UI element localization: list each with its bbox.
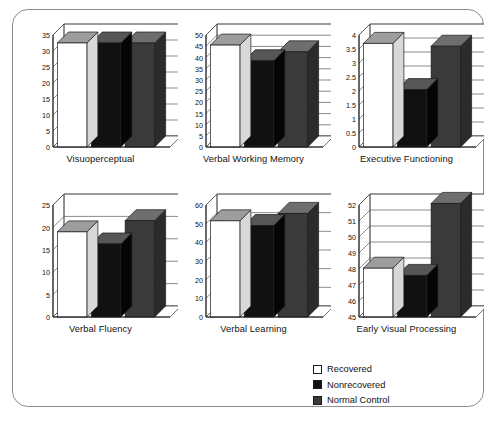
legend-item-normal-control: Normal Control bbox=[313, 393, 473, 407]
svg-text:49: 49 bbox=[348, 249, 356, 258]
svg-text:50: 50 bbox=[348, 233, 356, 242]
svg-text:2: 2 bbox=[352, 87, 356, 96]
svg-text:45: 45 bbox=[195, 42, 203, 51]
legend-item-nonrecovered: Nonrecovered bbox=[313, 378, 473, 392]
panel-title: Executive Functioning bbox=[329, 154, 484, 164]
svg-text:2.5: 2.5 bbox=[346, 73, 356, 82]
svg-text:10: 10 bbox=[195, 294, 203, 303]
plot-area: 0510152025 bbox=[23, 184, 178, 329]
legend-swatch-nonrecovered bbox=[313, 380, 322, 389]
panel-title: Verbal Fluency bbox=[23, 324, 178, 334]
svg-text:30: 30 bbox=[42, 47, 50, 56]
svg-text:1.5: 1.5 bbox=[346, 101, 356, 110]
svg-text:15: 15 bbox=[42, 95, 50, 104]
svg-text:35: 35 bbox=[195, 65, 203, 74]
svg-text:47: 47 bbox=[348, 281, 356, 290]
svg-text:3: 3 bbox=[352, 59, 356, 68]
svg-text:0: 0 bbox=[352, 143, 356, 152]
svg-text:20: 20 bbox=[42, 79, 50, 88]
legend-label: Recovered bbox=[327, 364, 372, 374]
plot-area: 4546474849505152 bbox=[329, 184, 484, 329]
svg-text:25: 25 bbox=[42, 201, 50, 210]
svg-text:3.5: 3.5 bbox=[346, 45, 356, 54]
svg-text:46: 46 bbox=[348, 297, 356, 306]
legend-swatch-recovered bbox=[313, 365, 322, 374]
svg-text:20: 20 bbox=[195, 98, 203, 107]
figure-frame: 05101520253035 Visuoperceptual 051015202… bbox=[12, 9, 484, 407]
svg-text:15: 15 bbox=[195, 110, 203, 119]
chart-panel-verbal-working-memory: 05101520253035404550 Verbal Working Memo… bbox=[176, 14, 331, 182]
svg-text:15: 15 bbox=[42, 246, 50, 255]
chart-panel-early-visual-processing: 4546474849505152 Early Visual Processing bbox=[329, 184, 484, 352]
plot-area: 05101520253035404550 bbox=[176, 14, 331, 159]
svg-text:0: 0 bbox=[199, 143, 203, 152]
svg-text:35: 35 bbox=[42, 31, 50, 40]
svg-text:40: 40 bbox=[195, 238, 203, 247]
legend: Recovered Nonrecovered Normal Control bbox=[313, 362, 473, 409]
svg-text:50: 50 bbox=[195, 31, 203, 40]
svg-text:10: 10 bbox=[42, 111, 50, 120]
svg-text:10: 10 bbox=[42, 268, 50, 277]
svg-text:51: 51 bbox=[348, 217, 356, 226]
svg-text:5: 5 bbox=[46, 127, 50, 136]
svg-text:48: 48 bbox=[348, 265, 356, 274]
chart-panel-executive-functioning: 00.511.522.533.54 Executive Functioning bbox=[329, 14, 484, 182]
panel-title: Early Visual Processing bbox=[329, 324, 484, 334]
svg-text:5: 5 bbox=[199, 132, 203, 141]
svg-text:25: 25 bbox=[42, 63, 50, 72]
svg-text:50: 50 bbox=[195, 220, 203, 229]
svg-text:0: 0 bbox=[46, 313, 50, 322]
panel-title: Visuoperceptual bbox=[23, 154, 178, 164]
legend-label: Normal Control bbox=[327, 395, 390, 405]
svg-text:0: 0 bbox=[46, 143, 50, 152]
chart-panel-verbal-fluency: 0510152025 Verbal Fluency bbox=[23, 184, 178, 352]
legend-swatch-normal-control bbox=[313, 396, 322, 405]
svg-text:40: 40 bbox=[195, 54, 203, 63]
legend-label: Nonrecovered bbox=[327, 380, 385, 390]
panel-title: Verbal Learning bbox=[176, 324, 331, 334]
svg-text:1: 1 bbox=[352, 115, 356, 124]
legend-item-recovered: Recovered bbox=[313, 362, 473, 376]
svg-text:10: 10 bbox=[195, 121, 203, 130]
svg-text:45: 45 bbox=[348, 313, 356, 322]
chart-panel-verbal-learning: 0102030405060 Verbal Learning bbox=[176, 184, 331, 352]
svg-text:5: 5 bbox=[46, 291, 50, 300]
svg-text:20: 20 bbox=[195, 276, 203, 285]
svg-text:4: 4 bbox=[352, 31, 356, 40]
svg-text:20: 20 bbox=[42, 224, 50, 233]
plot-area: 0102030405060 bbox=[176, 184, 331, 329]
svg-text:0.5: 0.5 bbox=[346, 129, 356, 138]
svg-text:0: 0 bbox=[199, 313, 203, 322]
chart-panel-grid: 05101520253035 Visuoperceptual 051015202… bbox=[13, 10, 485, 350]
svg-text:60: 60 bbox=[195, 201, 203, 210]
svg-text:30: 30 bbox=[195, 76, 203, 85]
svg-text:52: 52 bbox=[348, 201, 356, 210]
panel-title: Verbal Working Memory bbox=[176, 154, 331, 164]
plot-area: 05101520253035 bbox=[23, 14, 178, 159]
svg-text:25: 25 bbox=[195, 87, 203, 96]
svg-text:30: 30 bbox=[195, 257, 203, 266]
chart-panel-visuoperceptual: 05101520253035 Visuoperceptual bbox=[23, 14, 178, 182]
plot-area: 00.511.522.533.54 bbox=[329, 14, 484, 159]
